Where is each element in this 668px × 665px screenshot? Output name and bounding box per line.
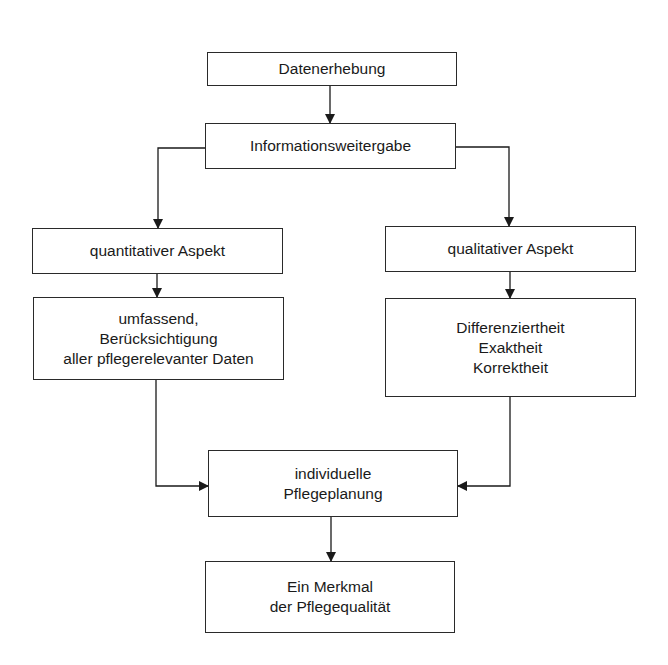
arrow-information-to-quantitativ bbox=[158, 148, 205, 228]
node-umfassend: umfassend, Berücksichtigung aller pflege… bbox=[33, 297, 284, 380]
node-quantitativer-aspekt: quantitativer Aspekt bbox=[32, 228, 283, 274]
node-informationsweitergabe: Informationsweitergabe bbox=[205, 123, 456, 169]
arrow-information-to-qualitativ bbox=[456, 147, 509, 226]
arrow-differenziertheit-to-pflegeplanung bbox=[458, 397, 510, 486]
node-qualitativer-aspekt: qualitativer Aspekt bbox=[385, 226, 636, 272]
node-label: qualitativer Aspekt bbox=[448, 239, 574, 259]
node-pflegeplanung: individuelle Pflegeplanung bbox=[208, 450, 458, 517]
node-differenziertheit: Differenziertheit Exaktheit Korrektheit bbox=[385, 298, 636, 397]
node-label-line-1: Ein Merkmal bbox=[287, 577, 373, 597]
node-merkmal-pflegequalitaet: Ein Merkmal der Pflegequalität bbox=[205, 561, 455, 633]
node-label-line-2: Berücksichtigung bbox=[99, 329, 217, 349]
node-label: Datenerhebung bbox=[279, 59, 386, 79]
node-label-line-2: Pflegeplanung bbox=[283, 484, 382, 504]
arrow-umfassend-to-pflegeplanung bbox=[156, 380, 208, 486]
node-label-line-2: der Pflegequalität bbox=[270, 597, 391, 617]
node-label: quantitativer Aspekt bbox=[90, 241, 225, 261]
node-label-line-1: Differenziertheit bbox=[456, 318, 564, 338]
node-label-line-1: individuelle bbox=[295, 464, 372, 484]
node-label-line-3: aller pflegerelevanter Daten bbox=[63, 349, 253, 369]
node-label: Informationsweitergabe bbox=[250, 136, 411, 156]
node-datenerhebung: Datenerhebung bbox=[207, 52, 457, 86]
node-label-line-1: umfassend, bbox=[118, 309, 198, 329]
node-label-line-3: Korrektheit bbox=[473, 358, 548, 378]
node-label-line-2: Exaktheit bbox=[479, 338, 543, 358]
